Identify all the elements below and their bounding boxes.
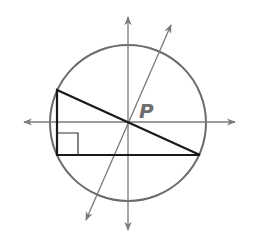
center-label-p: P	[139, 99, 154, 123]
geometry-diagram: P	[0, 0, 255, 234]
right-angle-marker	[57, 133, 78, 155]
